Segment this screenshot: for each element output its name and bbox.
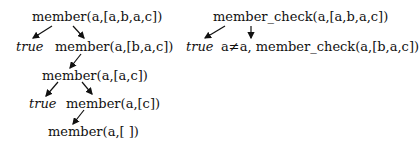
left-l3-member: member(a,[c]) [66,97,160,110]
edge-arrow [205,26,225,38]
edge-arrow [73,110,84,124]
right-root-node: member_check(a,[a,b,a,c]) [213,10,388,23]
edge-arrow [70,54,81,68]
right-l1-check: a≠a, member_check(a,[b,a,c]) [221,40,419,53]
edge-arrow [82,82,92,94]
left-l2-member: member(a,[a,c]) [42,69,148,82]
left-l3-true: true [29,97,57,110]
left-l1-true: true [16,40,44,53]
edge-arrow [73,26,84,38]
right-l1-true: true [186,40,214,53]
edge-arrow [33,26,52,38]
edge-arrow [46,82,58,96]
left-root-node: member(a,[a,b,a,c]) [32,10,162,23]
left-l1-member: member(a,[b,a,c]) [55,40,173,53]
left-l4-member: member(a,[ ]) [48,125,139,138]
